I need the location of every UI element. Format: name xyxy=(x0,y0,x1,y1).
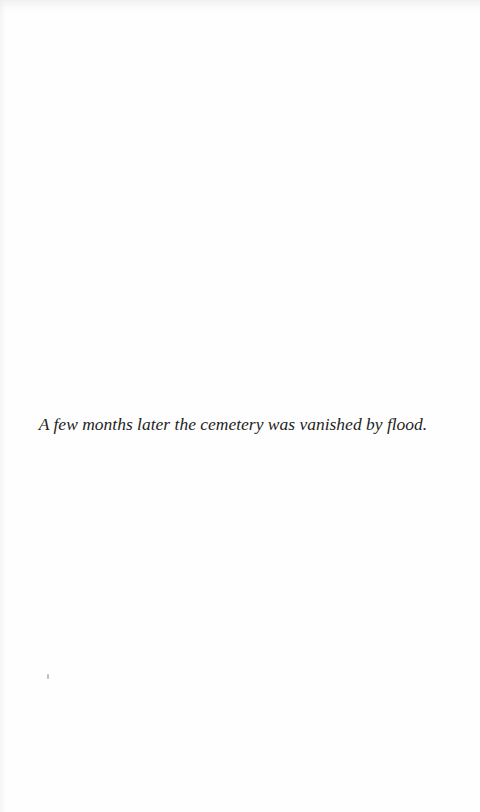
scan-edge-noise xyxy=(0,0,480,14)
page-caption: A few months later the cemetery was vani… xyxy=(0,413,480,435)
scan-left-edge xyxy=(0,0,6,812)
book-page: A few months later the cemetery was vani… xyxy=(0,0,480,812)
scan-speck xyxy=(47,674,49,679)
